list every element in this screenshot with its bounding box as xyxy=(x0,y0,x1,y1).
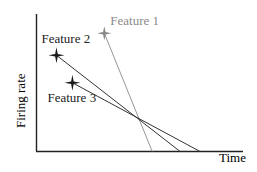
feature-3-label: Feature 3 xyxy=(47,90,96,105)
feature-2-star-icon xyxy=(48,47,64,63)
y-axis-label: Firing rate xyxy=(13,73,28,128)
feature-1-line xyxy=(104,33,152,151)
feature-1-label: Feature 1 xyxy=(110,13,159,28)
feature-1-star-icon xyxy=(97,26,111,40)
feature-diagram: Time Firing rate Feature 1Feature 2Featu… xyxy=(0,0,257,172)
feature-2-label: Feature 2 xyxy=(41,31,90,46)
features-group: Feature 1Feature 2Feature 3 xyxy=(41,13,200,151)
feature-3-star-icon xyxy=(64,75,80,91)
x-axis-label: Time xyxy=(219,150,246,165)
